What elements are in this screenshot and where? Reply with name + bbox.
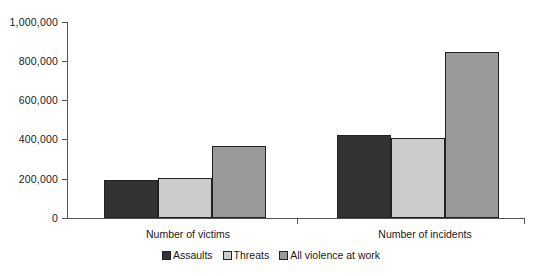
- legend-swatch-icon: [279, 251, 288, 260]
- legend-label: Threats: [234, 249, 270, 261]
- bar-assaults-number-of-incidents: [337, 135, 391, 218]
- legend-item-assaults: Assaults: [162, 249, 213, 261]
- legend-label: All violence at work: [290, 249, 380, 261]
- bar-chart-figure: 1,000,000 800,000 600,000 400,000 200,00…: [0, 0, 542, 276]
- category-label-victims: Number of victims: [108, 228, 268, 240]
- bars-layer: [0, 0, 542, 218]
- bar-all-violence-at-work-number-of-incidents: [445, 52, 499, 218]
- legend-item-all-violence-at-work: All violence at work: [279, 249, 380, 261]
- bar-assaults-number-of-victims: [104, 180, 158, 218]
- x-axis-tick-end: [524, 219, 525, 224]
- legend-swatch-icon: [223, 251, 232, 260]
- legend-item-threats: Threats: [223, 249, 270, 261]
- legend-swatch-icon: [162, 251, 171, 260]
- x-axis-line: [67, 218, 525, 219]
- chart-legend: AssaultsThreatsAll violence at work: [0, 249, 542, 261]
- bar-threats-number-of-victims: [158, 178, 212, 218]
- bar-threats-number-of-incidents: [391, 138, 445, 218]
- legend-label: Assaults: [173, 249, 213, 261]
- x-axis-tick-separator: [297, 219, 298, 224]
- category-label-incidents: Number of incidents: [345, 228, 505, 240]
- bar-all-violence-at-work-number-of-victims: [212, 146, 266, 218]
